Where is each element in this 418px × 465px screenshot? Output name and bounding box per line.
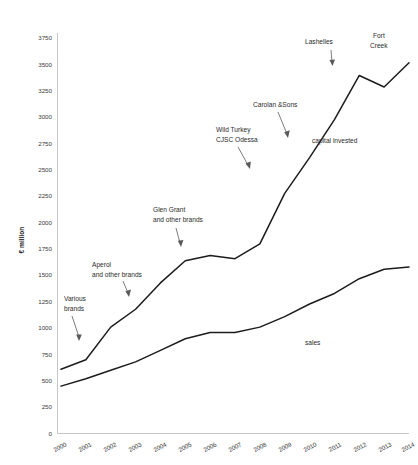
x-tick-label-2007: 2007 [227, 440, 243, 453]
y-axis-title: € million [18, 227, 25, 254]
series-line-capital-invested [61, 63, 409, 369]
annotation-lashelles-arrowhead [329, 60, 335, 66]
x-tick-label-2008: 2008 [252, 440, 268, 453]
y-tick-label-2750: 2750 [38, 140, 52, 147]
annotation-glen-grant-arrowhead [178, 240, 184, 247]
y-tick-label-500: 500 [42, 377, 53, 384]
y-tick-label-750: 750 [42, 351, 53, 358]
y-tick-label-3750: 3750 [38, 34, 52, 41]
annotation-various-brands-arrowhead [76, 335, 82, 342]
annotation-various-brands-leader [72, 316, 79, 337]
annotation-lashelles: Lashelles [305, 38, 335, 66]
capital-invested-label: capital invested [312, 137, 358, 145]
annotation-aperol-arrowhead [125, 290, 131, 297]
annotation-glen-grant: Glen Grant and other brands [153, 206, 204, 247]
chart-container: € million 0 250 500 750 1000 1250 1500 1… [0, 0, 418, 465]
x-tick-label-2011: 2011 [327, 440, 343, 453]
x-tick-label-2003: 2003 [127, 440, 143, 453]
annotation-wild-turkey-line1: Wild Turkey [216, 126, 251, 134]
annotation-wild-turkey: Wild Turkey CJSC Odessa [216, 126, 258, 169]
y-tick-label-3000: 3000 [38, 113, 52, 120]
y-tick-label-250: 250 [42, 403, 53, 410]
annotation-fort-creek-line2: Creek [370, 42, 388, 49]
x-tick-label-2009: 2009 [277, 440, 293, 453]
x-tick-label-2004: 2004 [152, 440, 168, 453]
annotation-carolan-sons-arrowhead [284, 130, 290, 138]
chart-svg: € million 0 250 500 750 1000 1250 1500 1… [0, 0, 418, 465]
y-tick-label-0: 0 [49, 430, 53, 437]
x-tick-label-2005: 2005 [177, 440, 193, 453]
annotation-carolan-sons-line1: Carolan &Sons [253, 101, 298, 108]
annotation-various-brands: Various brands [64, 295, 87, 341]
y-tick-label-1000: 1000 [38, 324, 52, 331]
annotation-aperol: Aperol and other brands [92, 261, 143, 297]
y-tick-label-1500: 1500 [38, 271, 52, 278]
x-tick-label-2006: 2006 [202, 440, 218, 453]
annotation-fort-creek: Fort Creek [370, 32, 388, 49]
annotation-glen-grant-line1: Glen Grant [153, 206, 185, 213]
y-tick-label-2000: 2000 [38, 219, 52, 226]
series-line-sales [61, 267, 409, 386]
annotation-carolan-sons: Carolan &Sons [253, 101, 298, 138]
x-tick-label-2010: 2010 [302, 440, 318, 453]
x-tick-label-2012: 2012 [352, 440, 368, 453]
annotation-aperol-line2: and other brands [92, 271, 143, 278]
annotation-fort-creek-line1: Fort [373, 32, 385, 39]
annotation-aperol-line1: Aperol [92, 261, 112, 269]
annotation-carolan-sons-leader [278, 112, 287, 134]
annotation-wild-turkey-line2: CJSC Odessa [216, 136, 258, 143]
annotation-various-brands-line1: Various [64, 295, 87, 302]
annotation-wild-turkey-leader [238, 147, 248, 165]
y-tick-label-2250: 2250 [38, 192, 52, 199]
annotation-various-brands-line2: brands [64, 305, 85, 312]
sales-label: sales [305, 339, 321, 346]
x-tick-label-2014: 2014 [400, 440, 416, 453]
annotation-lashelles-line1: Lashelles [305, 38, 334, 45]
x-tick-label-2000: 2000 [52, 440, 68, 453]
y-tick-label-1250: 1250 [38, 298, 52, 305]
x-tick-label-2001: 2001 [77, 440, 93, 453]
y-tick-label-3500: 3500 [38, 61, 52, 68]
y-tick-label-2500: 2500 [38, 166, 52, 173]
y-tick-label-1750: 1750 [38, 245, 52, 252]
x-tick-label-2013: 2013 [377, 440, 393, 453]
annotation-glen-grant-line2: and other brands [153, 216, 204, 223]
x-tick-label-2002: 2002 [102, 440, 118, 453]
y-tick-label-3250: 3250 [38, 87, 52, 94]
